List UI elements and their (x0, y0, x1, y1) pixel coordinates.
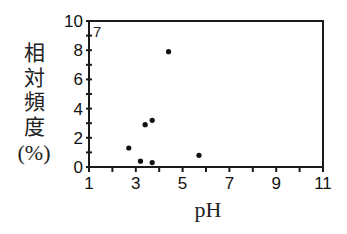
x-tick-label: 3 (131, 174, 140, 193)
data-point (150, 160, 155, 165)
scatter-chart: 相対頻度(%) 0246810 1357911 7 pH (0, 0, 347, 234)
x-tick-label: 9 (271, 174, 280, 193)
x-axis-title: pH (195, 197, 222, 222)
y-axis-title-char: 対 (24, 66, 45, 90)
y-axis-title-char: 頻 (24, 90, 45, 114)
y-tick-label: 6 (74, 70, 83, 89)
y-tick-label: 10 (64, 12, 83, 31)
x-tick-label: 5 (178, 174, 187, 193)
data-point (126, 145, 131, 150)
y-tick-label: 0 (74, 158, 83, 177)
chart-background (0, 0, 347, 234)
data-point (143, 122, 148, 127)
x-tick-label: 11 (314, 174, 332, 193)
x-tick-label: 1 (84, 174, 93, 193)
y-tick-label: 8 (74, 41, 83, 60)
y-tick-label: 2 (74, 129, 83, 148)
data-point (196, 153, 201, 158)
data-point (166, 49, 171, 54)
y-axis-title-char: 度 (24, 115, 45, 139)
data-point (150, 118, 155, 123)
y-axis-title-char: (%) (18, 140, 51, 165)
y-axis-title-char: 相 (24, 41, 45, 65)
data-point (138, 159, 143, 164)
y-tick-label: 4 (74, 100, 83, 119)
x-tick-label: 7 (225, 174, 234, 193)
panel-label: 7 (93, 23, 101, 40)
